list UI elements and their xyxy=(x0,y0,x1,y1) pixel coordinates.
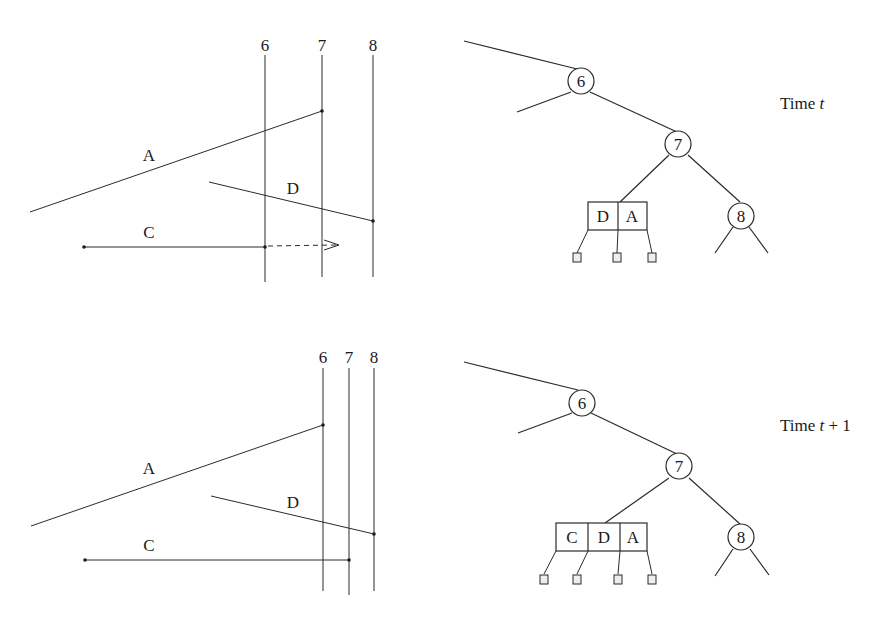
tree-edge-root xyxy=(464,41,577,69)
segment-c-sweep-point xyxy=(263,245,267,249)
tree-node-6-label: 6 xyxy=(578,394,587,413)
panel-time-t-plus-1: 6 7 8 A D C 6 xyxy=(31,348,851,595)
sweep-line-label-8: 8 xyxy=(370,348,379,367)
tree-edge-7-bucket xyxy=(620,155,669,202)
tree-edge-7-bucket xyxy=(605,478,669,523)
segment-a-endpoint xyxy=(321,423,325,427)
segment-c-end-endpoint xyxy=(347,558,351,562)
leaf-edge xyxy=(577,230,588,253)
caption-time-t-plus-1: Time t + 1 xyxy=(780,416,851,435)
tree-edge-8-right xyxy=(750,549,769,575)
tree-node-7-label: 7 xyxy=(675,457,684,476)
sweep-line-label-7: 7 xyxy=(345,348,354,367)
caption-suffix: + 1 xyxy=(824,416,851,435)
leaf-edge xyxy=(647,230,652,253)
sweep-line-label-6: 6 xyxy=(319,348,328,367)
sweep-line-label-6: 6 xyxy=(261,36,270,55)
bucket-entry-a: A xyxy=(626,207,639,226)
tree-edge-7-8 xyxy=(688,155,740,202)
segment-a xyxy=(30,111,322,212)
tree-edge-8-left xyxy=(715,549,733,576)
segment-a-label: A xyxy=(143,459,156,478)
leaf-square-icon xyxy=(613,253,621,262)
diagram-canvas: 6 7 8 A D C 6 xyxy=(0,0,895,617)
leaf-square-icon xyxy=(573,575,581,584)
bucket-entry-d: D xyxy=(598,528,610,547)
segment-d-label: D xyxy=(287,179,299,198)
sweep-line-label-7: 7 xyxy=(318,36,327,55)
tree-edge-6-left xyxy=(517,92,571,112)
caption-prefix: Time xyxy=(780,416,820,435)
panel-time-t: 6 7 8 A D C 6 xyxy=(30,36,826,282)
tree-node-8-label: 8 xyxy=(737,528,746,547)
sweep-lines: 6 7 8 xyxy=(261,36,378,282)
leaf-edge xyxy=(544,551,556,574)
segment-a-label: A xyxy=(143,146,156,165)
tree-edge-7-8 xyxy=(689,478,740,524)
tree-edge-6-7 xyxy=(591,413,677,454)
tree-node-7-label: 7 xyxy=(674,135,683,154)
leaf-edge xyxy=(647,551,652,574)
leaf-edge xyxy=(617,230,618,253)
segment-c-label: C xyxy=(143,536,154,555)
tree-edge-root xyxy=(464,362,578,390)
segment-c-start-endpoint xyxy=(83,558,87,562)
tree-edge-6-7 xyxy=(590,92,677,132)
caption-var: t xyxy=(820,94,826,113)
segment-d-endpoint xyxy=(371,219,375,223)
leaf-edge xyxy=(618,551,620,574)
sweep-line-label-8: 8 xyxy=(369,36,378,55)
leaf-square-icon xyxy=(648,253,656,262)
segment-a xyxy=(31,425,323,526)
segment-d-endpoint xyxy=(372,532,376,536)
status-tree: 6 7 8 D A xyxy=(464,41,768,262)
segment-c-dashed-extension xyxy=(268,245,336,246)
leaf-square-icon xyxy=(614,575,622,584)
tree-node-6-label: 6 xyxy=(577,72,586,91)
bucket-entry-d: D xyxy=(597,207,609,226)
leaf-square-icon xyxy=(648,575,656,584)
caption-time-t: Time t xyxy=(780,94,826,113)
bucket-entry-c: C xyxy=(566,528,577,547)
tree-edge-6-left xyxy=(518,413,572,433)
leaf-square-icon xyxy=(540,575,548,584)
segment-d-label: D xyxy=(287,493,299,512)
leaf-edge xyxy=(577,551,588,574)
status-tree: 6 7 8 C D A xyxy=(464,362,769,584)
leaf-square-icon xyxy=(573,253,581,262)
segment-a-endpoint xyxy=(320,109,324,113)
segment-c-start-endpoint xyxy=(82,245,86,249)
sweep-lines: 6 7 8 xyxy=(319,348,379,595)
caption-prefix: Time xyxy=(780,94,820,113)
segment-c-label: C xyxy=(143,223,154,242)
tree-edge-8-right xyxy=(749,227,768,253)
tree-node-8-label: 8 xyxy=(737,207,746,226)
tree-edge-8-left xyxy=(715,227,733,253)
bucket-entry-a: A xyxy=(627,528,640,547)
